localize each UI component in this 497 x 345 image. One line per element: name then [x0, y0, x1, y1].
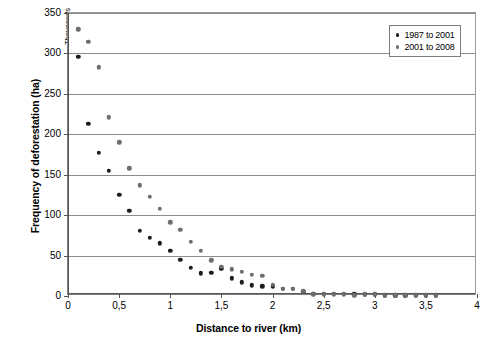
data-point [76, 54, 80, 58]
x-tick-label: 0 [65, 301, 71, 311]
data-point [86, 40, 90, 44]
data-point [209, 270, 213, 274]
scatter-chart: Frequency of deforestation (ha) Thousand… [0, 0, 497, 345]
x-tick-label: 2 [270, 301, 276, 311]
data-point [168, 220, 172, 224]
y-tick-label: 100 [44, 210, 61, 220]
data-point [137, 228, 141, 232]
data-point [321, 292, 325, 296]
y-tick-label: 300 [44, 48, 61, 58]
data-point [291, 287, 295, 291]
x-tick-label: 4 [474, 301, 480, 311]
y-tick-label: 250 [44, 89, 61, 99]
y-tick-label: 150 [44, 170, 61, 180]
x-tick [477, 294, 478, 298]
data-point [362, 292, 366, 296]
data-point [199, 271, 203, 275]
gridline [68, 215, 475, 216]
data-point [158, 241, 162, 245]
data-point [199, 249, 203, 253]
x-tick [119, 294, 120, 298]
data-point [158, 206, 162, 210]
data-point [424, 293, 428, 297]
data-point [117, 193, 121, 197]
y-tick-label: 0 [55, 291, 61, 301]
x-tick-label: 1 [167, 301, 173, 311]
data-point [96, 151, 100, 155]
data-point [352, 293, 356, 297]
data-point [148, 236, 152, 240]
data-point [107, 168, 111, 172]
chart-legend: 1987 to 20012001 to 2008 [389, 25, 461, 57]
data-point [178, 257, 182, 261]
x-tick [68, 294, 69, 298]
data-point [229, 276, 233, 280]
x-tick-label: 3,5 [419, 301, 433, 311]
data-point [260, 284, 264, 288]
data-point [229, 267, 233, 271]
data-point [260, 274, 264, 278]
data-point [117, 140, 121, 144]
data-point [240, 280, 244, 284]
data-point [413, 293, 417, 297]
data-point [148, 194, 152, 198]
y-tick-label: 200 [44, 129, 61, 139]
x-tick [273, 294, 274, 298]
data-point [127, 209, 131, 213]
x-tick-label: 3 [372, 301, 378, 311]
data-point [240, 270, 244, 274]
data-point [188, 240, 192, 244]
data-point [311, 292, 315, 296]
data-point [168, 249, 172, 253]
data-point [434, 293, 438, 297]
data-point [188, 265, 192, 269]
y-axis-line [68, 13, 69, 294]
data-point [393, 293, 397, 297]
gridline [68, 13, 475, 14]
data-point [250, 283, 254, 287]
y-axis-title: Frequency of deforestation (ha) [29, 46, 41, 266]
legend-item: 2001 to 2008 [394, 41, 455, 53]
data-point [137, 183, 141, 187]
data-point [281, 287, 285, 291]
x-axis-title: Distance to river (km) [0, 322, 497, 334]
data-point [86, 122, 90, 126]
data-point [76, 27, 80, 31]
y-tick-label: 350 [44, 8, 61, 18]
x-tick [221, 294, 222, 298]
data-point [209, 258, 213, 262]
x-tick-label: 2,5 [317, 301, 331, 311]
legend-label: 1987 to 2001 [404, 31, 454, 40]
data-point [342, 292, 346, 296]
x-tick-label: 0,5 [112, 301, 126, 311]
gridline [68, 134, 475, 135]
legend-marker-icon [396, 33, 399, 36]
data-point [383, 293, 387, 297]
data-point [403, 293, 407, 297]
y-tick-label: 50 [50, 251, 61, 261]
data-point [96, 65, 100, 69]
gridline [68, 175, 475, 176]
x-tick-label: 1,5 [214, 301, 228, 311]
data-point [250, 273, 254, 277]
data-point [373, 292, 377, 296]
legend-label: 2001 to 2008 [404, 43, 454, 52]
data-point [107, 115, 111, 119]
data-point [127, 166, 131, 170]
legend-marker-icon [396, 45, 399, 48]
data-point [178, 227, 182, 231]
data-point [332, 292, 336, 296]
gridline [68, 94, 475, 95]
x-tick [170, 294, 171, 298]
legend-item: 1987 to 2001 [394, 29, 455, 41]
gridline [68, 256, 475, 257]
